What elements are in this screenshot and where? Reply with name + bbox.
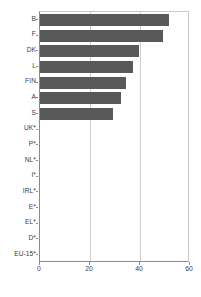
bar-row [40,12,190,28]
y-axis-tick-mark [36,66,38,67]
bar-row [40,122,190,138]
bar-L [40,61,133,73]
y-axis-tick-mark [36,50,38,51]
x-axis-labels: 0204060 [0,266,201,282]
y-axis-tick-mark [36,129,38,130]
y-axis-tick-mark [36,19,38,20]
y-axis-tick-mark [36,238,38,239]
y-axis-tick-label: EU-15* [0,251,36,258]
y-axis-tick-mark [36,254,38,255]
x-axis-tick-mark [189,262,190,265]
x-axis-tick-mark [39,262,40,265]
y-axis-tick-label: I* [0,172,36,179]
bar-chart: BFDKLFINASUK*P*NL*I*IRL*E*EL*D*EU-15* 02… [0,0,201,297]
bar-row [40,200,190,216]
bar-row [40,59,190,75]
bar-row [40,90,190,106]
bar-A [40,92,121,104]
bar-row [40,247,190,263]
y-axis-tick-mark [36,191,38,192]
y-axis-tick-label: NL* [0,157,36,164]
bar-row [40,43,190,59]
bar-row [40,232,190,248]
y-axis-tick-label: B [0,16,36,23]
bar-row [40,153,190,169]
y-axis-tick-label: P* [0,141,36,148]
y-axis-tick-label: F [0,31,36,38]
bar-B [40,14,169,26]
y-axis-tick-mark [36,176,38,177]
bar-S [40,108,113,120]
y-axis-labels: BFDKLFINASUK*P*NL*I*IRL*E*EL*D*EU-15* [0,11,36,262]
y-axis-tick-mark [36,223,38,224]
y-axis-tick-label: FIN [0,78,36,85]
y-axis-tick-mark [36,144,38,145]
bar-F [40,30,163,42]
y-axis-tick-label: L [0,63,36,70]
y-axis-tick-label: D* [0,235,36,242]
x-axis-tick-mark [139,262,140,265]
bar-FIN [40,77,126,89]
y-axis-tick-mark [36,160,38,161]
y-axis-tick-label: S [0,110,36,117]
y-axis-tick-label: IRL* [0,188,36,195]
x-axis-tick-label: 60 [185,266,193,273]
y-axis-tick-label: UK* [0,125,36,132]
bar-row [40,75,190,91]
y-axis-tick-mark [36,97,38,98]
y-axis-tick-label: A [0,94,36,101]
y-axis-tick-label: EL* [0,219,36,226]
x-axis-tick-label: 0 [37,266,41,273]
y-axis-tick-label: E* [0,204,36,211]
bar-row [40,106,190,122]
y-axis-tick-mark [36,35,38,36]
y-axis-tick-mark [36,207,38,208]
bar-row [40,169,190,185]
bars-layer [40,12,188,261]
bar-row [40,185,190,201]
bar-DK [40,45,139,57]
y-axis-tick-mark [36,82,38,83]
y-axis-tick-label: DK [0,47,36,54]
bar-row [40,216,190,232]
y-axis-tick-mark [36,113,38,114]
x-axis-tick-label: 40 [135,266,143,273]
bar-row [40,28,190,44]
x-axis-tick-mark [89,262,90,265]
plot-area [39,11,189,262]
bar-row [40,138,190,154]
x-axis-tick-label: 20 [85,266,93,273]
